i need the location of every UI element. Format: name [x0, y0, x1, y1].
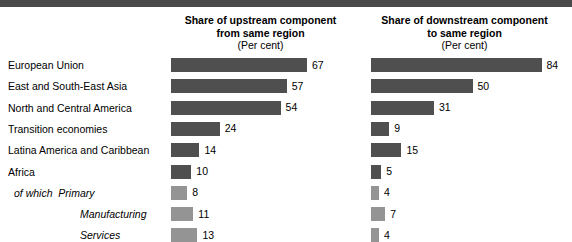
chart-rows: European Union6784East and South-East As…	[0, 0, 572, 242]
chart-row: North and Central America5431	[0, 99, 572, 120]
bar-value-label: 4	[384, 186, 390, 198]
bar-upstream-5	[171, 165, 191, 179]
row-label-manufacturing: Manufacturing	[80, 208, 238, 220]
bar-upstream-2	[171, 101, 281, 115]
row-label-primary: of which Primary	[14, 187, 172, 199]
bar-value-label: 14	[204, 144, 216, 156]
bar-upstream-3	[171, 122, 220, 136]
bar-downstream-5	[371, 165, 381, 179]
chart-row: Latina America and Caribbean1415	[0, 141, 572, 162]
bar-upstream-7	[171, 207, 193, 221]
row-label-text: Services	[80, 229, 120, 241]
row-label-text: Primary	[58, 187, 94, 199]
bar-value-label: 15	[406, 144, 418, 156]
chart-row: East and South-East Asia5750	[0, 77, 572, 98]
row-label-european-union: European Union	[8, 59, 166, 71]
row-label-latina-america-and-caribbean: Latina America and Caribbean	[8, 144, 166, 156]
bar-downstream-7	[371, 207, 385, 221]
row-label-services: Services	[80, 229, 238, 241]
bar-value-label: 57	[292, 80, 304, 92]
chart-row: Africa105	[0, 163, 572, 184]
bar-value-label: 67	[312, 59, 324, 71]
of-which-prefix: of which	[14, 187, 58, 199]
bar-downstream-2	[371, 101, 434, 115]
bar-downstream-0	[371, 58, 542, 72]
chart-row: of which Primary84	[0, 184, 572, 205]
bar-upstream-4	[171, 143, 199, 157]
bar-value-label: 54	[286, 101, 298, 113]
bar-value-label: 24	[225, 122, 237, 134]
bar-value-label: 5	[386, 165, 392, 177]
bar-downstream-1	[371, 79, 473, 93]
bar-value-label: 31	[439, 101, 451, 113]
bar-value-label: 8	[192, 186, 198, 198]
bar-value-label: 50	[478, 80, 490, 92]
bar-downstream-8	[371, 228, 379, 242]
row-label-africa: Africa	[8, 166, 166, 178]
bar-upstream-8	[171, 228, 197, 242]
bar-upstream-0	[171, 58, 307, 72]
bar-downstream-6	[371, 186, 379, 200]
bar-value-label: 10	[196, 165, 208, 177]
row-label-transition-economies: Transition economies	[8, 123, 166, 135]
bar-upstream-1	[171, 79, 287, 93]
bar-downstream-4	[371, 143, 401, 157]
row-label-east-and-south-east-asia: East and South-East Asia	[8, 80, 166, 92]
row-label-north-and-central-america: North and Central America	[8, 102, 166, 114]
chart-row: Services134	[0, 226, 572, 242]
bar-value-label: 13	[202, 229, 214, 241]
row-label-text: Manufacturing	[80, 208, 147, 220]
bar-downstream-3	[371, 122, 389, 136]
chart-row: Manufacturing117	[0, 205, 572, 226]
bar-value-label: 4	[384, 229, 390, 241]
bar-value-label: 9	[394, 122, 400, 134]
chart-row: Transition economies249	[0, 120, 572, 141]
bar-value-label: 11	[198, 208, 209, 220]
chart-figure: Share of upstream component from same re…	[0, 0, 572, 242]
bar-value-label: 84	[547, 59, 559, 71]
bar-upstream-6	[171, 186, 187, 200]
chart-row: European Union6784	[0, 56, 572, 77]
bar-value-label: 7	[390, 208, 396, 220]
